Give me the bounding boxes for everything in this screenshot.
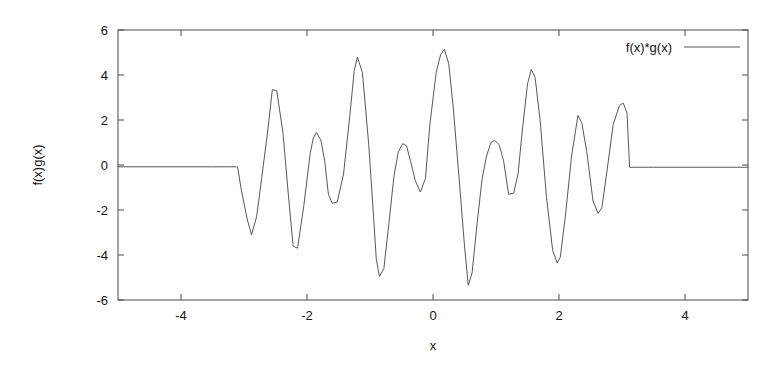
x-tick-label: 2: [555, 308, 562, 323]
line-chart: -4-2024 -6-4-20246 x f(x)g(x) f(x)*g(x): [0, 0, 784, 368]
y-tick-label: 6: [101, 23, 108, 38]
chart-figure: -4-2024 -6-4-20246 x f(x)g(x) f(x)*g(x): [0, 0, 784, 368]
y-axis-label: f(x)g(x): [30, 144, 45, 185]
y-tick-label: -4: [96, 248, 108, 263]
x-tick-label: 0: [429, 308, 436, 323]
legend-entry-label: f(x)*g(x): [626, 40, 672, 55]
y-tick-label: 4: [101, 68, 108, 83]
y-tick-label: -2: [96, 203, 108, 218]
x-tick-label: -2: [301, 308, 313, 323]
x-tick-label: 4: [681, 308, 688, 323]
y-tick-label: 0: [101, 158, 108, 173]
x-tick-label: -4: [175, 308, 187, 323]
y-tick-label: -6: [96, 293, 108, 308]
x-axis-label: x: [430, 338, 437, 353]
y-tick-label: 2: [101, 113, 108, 128]
